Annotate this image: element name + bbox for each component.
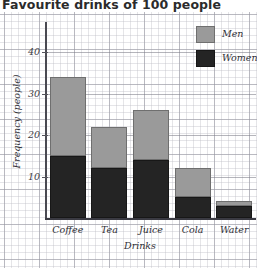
y-tick-mark — [42, 94, 48, 95]
bar-segment-women — [133, 160, 169, 218]
bar-cola — [175, 168, 211, 218]
y-tick-mark — [42, 135, 48, 136]
category-label-coffee: Coffee — [47, 224, 89, 235]
bar-segment-women — [91, 168, 127, 218]
bar-segment-men — [50, 77, 86, 156]
bar-segment-women — [175, 197, 211, 218]
x-axis-line — [45, 218, 256, 220]
legend-label-men: Men — [222, 28, 243, 39]
bar-segment-women — [50, 156, 86, 218]
bar-coffee — [50, 77, 86, 218]
bar-segment-men — [133, 110, 169, 160]
category-label-tea: Tea — [89, 224, 131, 235]
bar-tea — [91, 127, 127, 218]
y-tick-mark — [42, 52, 48, 53]
x-axis-label: Drinks — [110, 240, 170, 251]
legend-swatch-women — [196, 50, 215, 67]
bar-segment-women — [216, 206, 252, 218]
bar-segment-men — [175, 168, 211, 197]
y-tick-mark — [42, 177, 48, 178]
chart-plot-area: 10203040 CoffeeTeaJuiceColaWater Frequen… — [0, 0, 257, 268]
legend-label-women: Women — [222, 52, 257, 63]
y-axis-label: Frequency (people) — [11, 70, 22, 174]
category-label-water: Water — [213, 224, 255, 235]
bar-juice — [133, 110, 169, 218]
y-tick-label: 40 — [14, 46, 40, 57]
bar-segment-men — [91, 127, 127, 169]
bar-water — [216, 201, 252, 218]
category-label-juice: Juice — [130, 224, 172, 235]
legend-swatch-men — [196, 26, 215, 43]
category-label-cola: Cola — [172, 224, 214, 235]
